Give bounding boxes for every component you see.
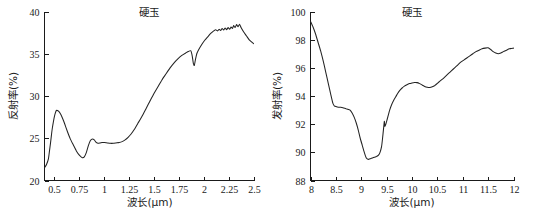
y-tick-label: 40 bbox=[30, 7, 40, 18]
left-chart-svg: 0.50.7511.251.51.7522.252.5 2025303540 硬… bbox=[0, 0, 266, 219]
right-y-ticks bbox=[311, 13, 315, 182]
right-x-ticks bbox=[312, 177, 515, 181]
x-tick-label: 11 bbox=[459, 184, 469, 195]
x-tick-label: 0.75 bbox=[71, 184, 89, 195]
right-y-axis-label: 发射率(%) bbox=[271, 72, 283, 120]
right-chart-title: 硬玉 bbox=[402, 6, 422, 18]
x-tick-label: 8 bbox=[309, 184, 314, 195]
x-tick-label: 11.5 bbox=[480, 184, 497, 195]
right-emissivity-curve bbox=[311, 21, 514, 159]
y-tick-label: 30 bbox=[30, 91, 40, 102]
y-tick-label: 20 bbox=[30, 176, 40, 187]
x-tick-label: 2.25 bbox=[221, 184, 239, 195]
right-axis-lines bbox=[311, 12, 514, 181]
left-y-axis-label: 反射率(%) bbox=[7, 72, 19, 120]
y-tick-label: 92 bbox=[296, 119, 306, 130]
y-tick-label: 100 bbox=[291, 7, 306, 18]
y-tick-label: 90 bbox=[296, 147, 306, 158]
left-x-tick-labels: 0.50.7511.251.51.7522.252.5 bbox=[48, 184, 261, 195]
right-axes bbox=[311, 12, 514, 181]
chart-panel-right: 88.599.51010.51111.512 889092949698100 硬… bbox=[266, 0, 533, 219]
left-y-ticks bbox=[45, 13, 49, 182]
x-tick-label: 0.5 bbox=[48, 184, 61, 195]
x-tick-label: 12 bbox=[510, 184, 520, 195]
y-tick-label: 94 bbox=[296, 91, 306, 102]
right-y-tick-labels: 889092949698100 bbox=[291, 7, 306, 187]
x-tick-label: 2 bbox=[202, 184, 207, 195]
x-tick-label: 10.5 bbox=[429, 184, 447, 195]
right-chart-svg: 88.599.51010.51111.512 889092949698100 硬… bbox=[266, 0, 533, 219]
left-x-ticks bbox=[55, 177, 255, 181]
right-x-tick-labels: 88.599.51010.51111.512 bbox=[309, 184, 520, 195]
left-chart-title: 硬玉 bbox=[139, 6, 159, 18]
left-y-tick-labels: 2025303540 bbox=[30, 7, 40, 187]
right-x-axis-label: 波长(μm) bbox=[389, 196, 434, 208]
x-tick-label: 9 bbox=[359, 184, 364, 195]
y-tick-label: 35 bbox=[30, 49, 40, 60]
x-tick-label: 2.5 bbox=[248, 184, 261, 195]
y-tick-label: 98 bbox=[296, 35, 306, 46]
left-axis-lines bbox=[45, 12, 254, 181]
x-tick-label: 1.75 bbox=[171, 184, 189, 195]
x-tick-label: 1.5 bbox=[148, 184, 161, 195]
y-tick-label: 88 bbox=[296, 176, 306, 187]
figure-container: 0.50.7511.251.51.7522.252.5 2025303540 硬… bbox=[0, 0, 533, 219]
x-tick-label: 9.5 bbox=[381, 184, 394, 195]
chart-panel-left: 0.50.7511.251.51.7522.252.5 2025303540 硬… bbox=[0, 0, 266, 219]
y-tick-label: 96 bbox=[296, 63, 306, 74]
left-axes bbox=[45, 12, 254, 181]
y-tick-label: 25 bbox=[30, 133, 40, 144]
x-tick-label: 10 bbox=[408, 184, 418, 195]
left-x-axis-label: 波长(μm) bbox=[127, 196, 172, 208]
left-reflectance-curve bbox=[45, 24, 254, 168]
x-tick-label: 8.5 bbox=[330, 184, 343, 195]
x-tick-label: 1 bbox=[102, 184, 107, 195]
x-tick-label: 1.25 bbox=[121, 184, 139, 195]
